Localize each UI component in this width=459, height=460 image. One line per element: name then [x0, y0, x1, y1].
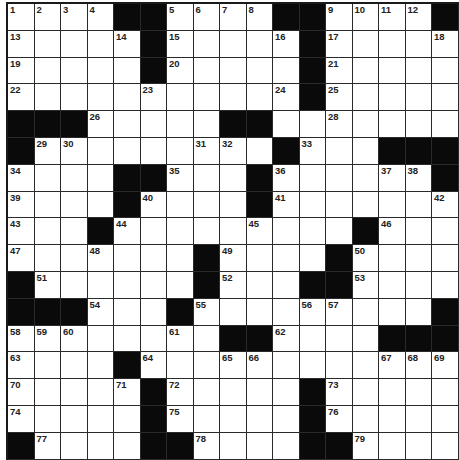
grid-cell[interactable]: [194, 165, 221, 192]
grid-cell[interactable]: 45: [247, 218, 274, 245]
grid-cell[interactable]: [379, 245, 406, 272]
grid-cell[interactable]: [220, 31, 247, 58]
grid-cell[interactable]: [379, 111, 406, 138]
grid-cell[interactable]: [432, 218, 459, 245]
grid-cell[interactable]: [273, 58, 300, 85]
grid-cell[interactable]: [406, 245, 433, 272]
grid-cell[interactable]: 63: [8, 352, 35, 379]
grid-cell[interactable]: 51: [35, 272, 62, 299]
grid-cell[interactable]: [406, 84, 433, 111]
grid-cell[interactable]: [88, 165, 115, 192]
grid-cell[interactable]: [406, 272, 433, 299]
grid-cell[interactable]: [194, 111, 221, 138]
grid-cell[interactable]: [141, 111, 168, 138]
grid-cell[interactable]: 12: [406, 4, 433, 31]
grid-cell[interactable]: [353, 379, 380, 406]
grid-cell[interactable]: 5: [167, 4, 194, 31]
grid-cell[interactable]: 55: [194, 299, 221, 326]
grid-cell[interactable]: [194, 352, 221, 379]
grid-cell[interactable]: 53: [353, 272, 380, 299]
grid-cell[interactable]: [88, 326, 115, 353]
grid-cell[interactable]: [114, 406, 141, 433]
grid-cell[interactable]: 28: [326, 111, 353, 138]
grid-cell[interactable]: [406, 299, 433, 326]
grid-cell[interactable]: 29: [35, 138, 62, 165]
grid-cell[interactable]: [194, 192, 221, 219]
grid-cell[interactable]: [247, 272, 274, 299]
grid-cell[interactable]: [379, 433, 406, 460]
grid-cell[interactable]: [88, 192, 115, 219]
grid-cell[interactable]: 58: [8, 326, 35, 353]
grid-cell[interactable]: 65: [220, 352, 247, 379]
grid-cell[interactable]: 25: [326, 84, 353, 111]
grid-cell[interactable]: 70: [8, 379, 35, 406]
grid-cell[interactable]: 37: [379, 165, 406, 192]
grid-cell[interactable]: 73: [326, 379, 353, 406]
grid-cell[interactable]: [61, 406, 88, 433]
grid-cell[interactable]: [220, 58, 247, 85]
grid-cell[interactable]: [326, 326, 353, 353]
grid-cell[interactable]: [273, 352, 300, 379]
grid-cell[interactable]: [61, 245, 88, 272]
grid-cell[interactable]: [247, 379, 274, 406]
grid-cell[interactable]: [432, 272, 459, 299]
grid-cell[interactable]: 23: [141, 84, 168, 111]
grid-cell[interactable]: [114, 272, 141, 299]
grid-cell[interactable]: 47: [8, 245, 35, 272]
grid-cell[interactable]: 52: [220, 272, 247, 299]
grid-cell[interactable]: [88, 272, 115, 299]
grid-cell[interactable]: 15: [167, 31, 194, 58]
grid-cell[interactable]: [194, 58, 221, 85]
grid-cell[interactable]: 6: [194, 4, 221, 31]
grid-cell[interactable]: [61, 192, 88, 219]
grid-cell[interactable]: 77: [35, 433, 62, 460]
grid-cell[interactable]: 49: [220, 245, 247, 272]
grid-cell[interactable]: [273, 299, 300, 326]
grid-cell[interactable]: [114, 299, 141, 326]
grid-cell[interactable]: [247, 138, 274, 165]
grid-cell[interactable]: 57: [326, 299, 353, 326]
grid-cell[interactable]: 44: [114, 218, 141, 245]
grid-cell[interactable]: [247, 433, 274, 460]
grid-cell[interactable]: [300, 352, 327, 379]
grid-cell[interactable]: [167, 218, 194, 245]
grid-cell[interactable]: [353, 352, 380, 379]
grid-cell[interactable]: [114, 326, 141, 353]
grid-cell[interactable]: 16: [273, 31, 300, 58]
grid-cell[interactable]: [273, 218, 300, 245]
grid-cell[interactable]: [326, 138, 353, 165]
grid-cell[interactable]: 34: [8, 165, 35, 192]
grid-cell[interactable]: [141, 326, 168, 353]
grid-cell[interactable]: 54: [88, 299, 115, 326]
grid-cell[interactable]: [353, 299, 380, 326]
grid-cell[interactable]: [167, 245, 194, 272]
grid-cell[interactable]: 20: [167, 58, 194, 85]
grid-cell[interactable]: [35, 379, 62, 406]
grid-cell[interactable]: [247, 31, 274, 58]
grid-cell[interactable]: [220, 406, 247, 433]
grid-cell[interactable]: [353, 326, 380, 353]
grid-cell[interactable]: 8: [247, 4, 274, 31]
grid-cell[interactable]: [353, 192, 380, 219]
grid-cell[interactable]: 62: [273, 326, 300, 353]
grid-cell[interactable]: [220, 218, 247, 245]
grid-cell[interactable]: [35, 31, 62, 58]
grid-cell[interactable]: [61, 379, 88, 406]
grid-cell[interactable]: [88, 379, 115, 406]
grid-cell[interactable]: [61, 84, 88, 111]
grid-cell[interactable]: [353, 31, 380, 58]
grid-cell[interactable]: [88, 406, 115, 433]
grid-cell[interactable]: [35, 406, 62, 433]
grid-cell[interactable]: [35, 352, 62, 379]
grid-cell[interactable]: 69: [432, 352, 459, 379]
grid-cell[interactable]: 2: [35, 4, 62, 31]
grid-cell[interactable]: [61, 31, 88, 58]
grid-cell[interactable]: [406, 31, 433, 58]
grid-cell[interactable]: 61: [167, 326, 194, 353]
grid-cell[interactable]: [432, 245, 459, 272]
grid-cell[interactable]: [379, 192, 406, 219]
grid-cell[interactable]: [194, 31, 221, 58]
grid-cell[interactable]: [88, 352, 115, 379]
grid-cell[interactable]: [61, 218, 88, 245]
grid-cell[interactable]: [141, 138, 168, 165]
